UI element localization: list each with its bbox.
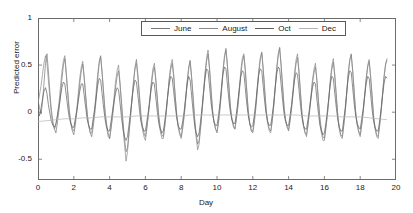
figure: 1 0.5 0 -0.5 02468101214161820 Predicted…	[0, 0, 413, 213]
legend-item-june[interactable]: June	[151, 25, 191, 33]
legend-item-dec[interactable]: Dec	[299, 25, 336, 33]
y-axis-label: Predicted error	[12, 28, 21, 108]
legend-line-icon	[199, 28, 218, 29]
legend-line-icon	[255, 28, 274, 29]
legend-label: Dec	[322, 25, 336, 33]
chart-canvas	[38, 18, 396, 180]
legend-label: June	[174, 25, 191, 33]
series-line-june	[38, 48, 387, 152]
x-tick-label: 0	[28, 184, 48, 192]
series-line-august	[38, 47, 387, 161]
x-tick-label: 2	[64, 184, 84, 192]
x-tick-label: 14	[279, 184, 299, 192]
legend-item-august[interactable]: August	[199, 25, 247, 33]
legend-item-oct[interactable]: Oct	[255, 25, 290, 33]
x-tick-label: 4	[100, 184, 120, 192]
legend-line-icon	[151, 28, 170, 29]
x-tick-label: 6	[135, 184, 155, 192]
x-tick-label: 18	[350, 184, 370, 192]
x-tick-label: 10	[207, 184, 227, 192]
x-tick-label: 12	[243, 184, 263, 192]
legend-line-icon	[299, 28, 318, 29]
legend-label: Oct	[278, 25, 290, 33]
series-line-dec	[38, 115, 387, 122]
y-tick-label: 1	[6, 14, 32, 22]
series-group	[38, 47, 387, 161]
y-tick-label: -0.5	[6, 155, 32, 163]
x-tick-label: 16	[314, 184, 334, 192]
y-tick-label: 0	[6, 108, 32, 116]
x-tick-label: 20	[386, 184, 406, 192]
axis-ticks	[38, 18, 396, 180]
chart-legend[interactable]: JuneAugustOctDec	[141, 21, 346, 36]
x-axis-label: Day	[176, 198, 236, 207]
x-tick-label: 8	[171, 184, 191, 192]
legend-label: August	[222, 25, 247, 33]
